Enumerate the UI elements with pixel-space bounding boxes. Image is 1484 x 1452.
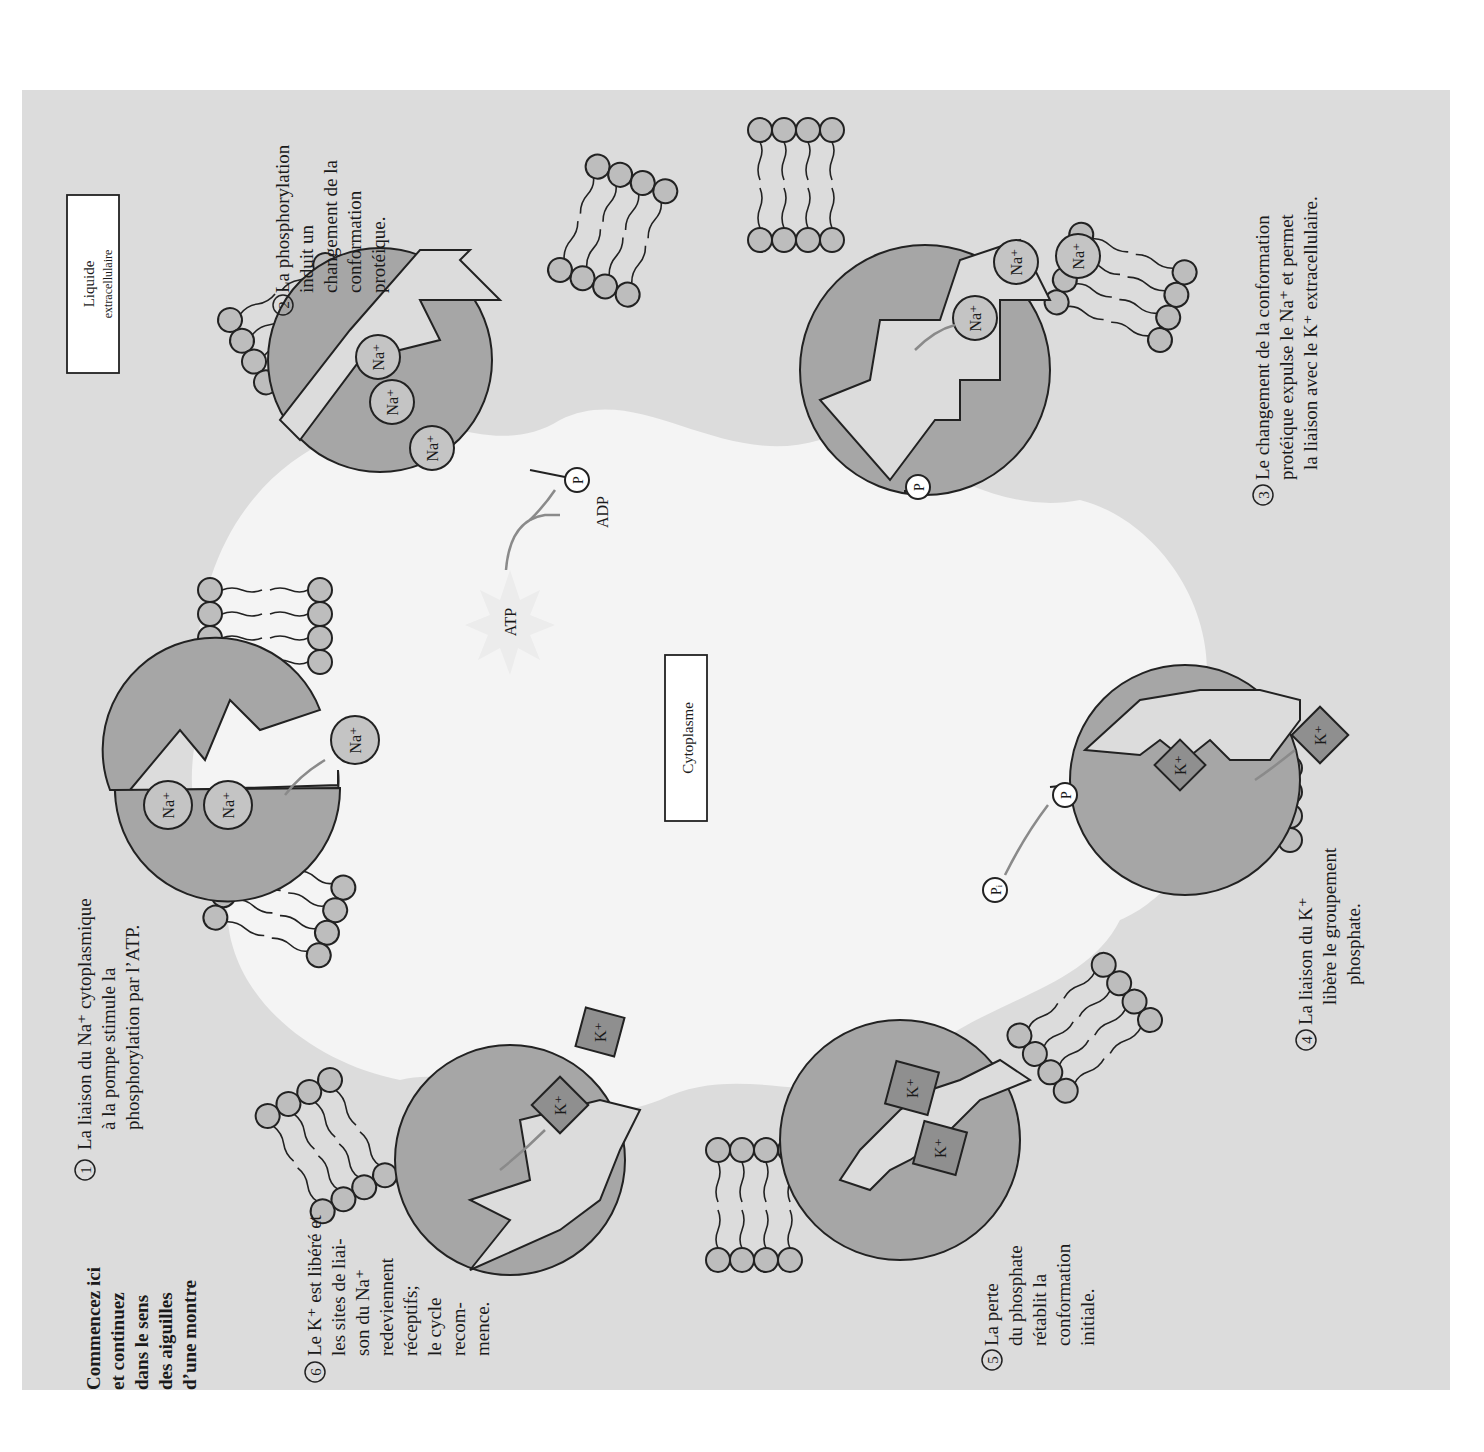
svg-text:ATP: ATP [502, 608, 519, 637]
svg-text:et continuez: et continuez [107, 1292, 128, 1390]
svg-text:mence.: mence. [472, 1302, 493, 1356]
svg-text:redeviennent: redeviennent [376, 1257, 397, 1356]
svg-text:libère le groupement: libère le groupement [1319, 847, 1340, 1005]
svg-text:Commencez ici: Commencez ici [83, 1267, 104, 1390]
svg-text:Le changement de la conformati: Le changement de la conformation [1252, 215, 1273, 480]
svg-text:K⁺: K⁺ [932, 1138, 949, 1158]
svg-text:extracellulaire: extracellulaire [101, 250, 115, 319]
svg-text:à la pompe stimule la: à la pompe stimule la [98, 967, 119, 1130]
svg-text:Na⁺: Na⁺ [370, 343, 387, 370]
svg-text:Na⁺: Na⁺ [384, 388, 401, 415]
svg-text:5: 5 [985, 1356, 1001, 1364]
svg-text:Le K⁺ est libéré et: Le K⁺ est libéré et [304, 1214, 325, 1356]
svg-text:La perte: La perte [981, 1283, 1002, 1346]
step-4-caption: 4 La liaison du K⁺ libère le groupement … [1295, 847, 1364, 1050]
svg-text:le cycle: le cycle [424, 1297, 445, 1356]
svg-text:K⁺: K⁺ [904, 1078, 921, 1098]
svg-text:La liaison du Na⁺ cytoplasmiqu: La liaison du Na⁺ cytoplasmique [74, 898, 95, 1150]
svg-text:des aiguilles: des aiguilles [155, 1292, 176, 1390]
svg-text:Na⁺: Na⁺ [1008, 248, 1025, 275]
svg-text:K⁺: K⁺ [592, 1022, 609, 1042]
membrane-segment-3 [251, 1064, 401, 1228]
svg-text:Na⁺: Na⁺ [1070, 242, 1087, 269]
svg-text:2: 2 [276, 301, 292, 309]
svg-text:conformation: conformation [344, 190, 365, 293]
svg-text:phosphate.: phosphate. [1343, 903, 1364, 985]
svg-text:P: P [1059, 791, 1074, 799]
svg-text:ADP: ADP [594, 496, 611, 528]
svg-text:d’une montre: d’une montre [179, 1280, 200, 1390]
cytoplasm-label: Cytoplasme [665, 655, 707, 821]
membrane-segment-9 [545, 151, 681, 310]
svg-text:recom-: recom- [448, 1302, 469, 1356]
svg-text:la liaison avec le K⁺ extracel: la liaison avec le K⁺ extracellulaire. [1300, 196, 1321, 470]
svg-text:dans le sens: dans le sens [131, 1295, 152, 1390]
svg-text:4: 4 [1299, 1036, 1315, 1044]
svg-text:phosphorylation par l’ATP.: phosphorylation par l’ATP. [122, 925, 143, 1130]
svg-text:son du Na⁺: son du Na⁺ [352, 1269, 373, 1356]
svg-text:K⁺: K⁺ [1312, 725, 1329, 745]
svg-text:Na⁺: Na⁺ [160, 791, 177, 818]
svg-text:initiale.: initiale. [1077, 1288, 1098, 1346]
step-2-caption: 2 La phosphorylation induit un changemen… [272, 144, 389, 315]
svg-text:K⁺: K⁺ [552, 1095, 569, 1115]
svg-text:protéique expulse le Na⁺ et pe: protéique expulse le Na⁺ et permet [1276, 213, 1297, 480]
svg-text:rétablit la: rétablit la [1029, 1273, 1050, 1346]
membrane-segment-8 [748, 118, 844, 252]
step-5-caption: 5 La perte du phosphate rétablit la conf… [981, 1243, 1098, 1370]
svg-text:Cytoplasme: Cytoplasme [680, 702, 696, 774]
svg-text:Liquide: Liquide [81, 260, 97, 307]
svg-text:6: 6 [308, 1368, 324, 1376]
svg-text:P: P [571, 476, 586, 484]
svg-text:protéique.: protéique. [368, 216, 389, 293]
svg-text:réceptifs;: réceptifs; [400, 1285, 421, 1356]
pump-state-5 [780, 1020, 1030, 1260]
svg-text:changement de la: changement de la [320, 159, 341, 293]
svg-text:Na⁺: Na⁺ [967, 304, 984, 331]
svg-text:La liaison du K⁺: La liaison du K⁺ [1295, 897, 1316, 1025]
svg-text:Na⁺: Na⁺ [424, 434, 441, 461]
svg-text:1: 1 [78, 1166, 94, 1174]
svg-text:3: 3 [1256, 491, 1272, 499]
svg-text:La phosphorylation: La phosphorylation [272, 144, 293, 293]
svg-text:Na⁺: Na⁺ [347, 726, 364, 753]
intro-text: Commencez ici et continuez dans le sens … [83, 1267, 200, 1390]
svg-text:du phosphate: du phosphate [1005, 1245, 1026, 1346]
svg-text:les sites de liai-: les sites de liai- [328, 1238, 349, 1356]
svg-text:P: P [912, 483, 927, 491]
svg-text:K⁺: K⁺ [1172, 755, 1189, 775]
svg-text:Pᵢ: Pᵢ [989, 884, 1004, 895]
svg-text:Na⁺: Na⁺ [220, 791, 237, 818]
step-3-caption: 3 Le changement de la conformation proté… [1252, 196, 1321, 505]
step-1-caption: 1 La liaison du Na⁺ cytoplasmique à la p… [74, 898, 143, 1180]
sodium-potassium-pump-diagram: Liquide extracellulaire Cytoplasme Na⁺ N… [0, 0, 1484, 1452]
svg-text:induit un: induit un [296, 224, 317, 293]
svg-text:conformation: conformation [1053, 1243, 1074, 1346]
extracellular-label: Liquide extracellulaire [67, 195, 119, 373]
